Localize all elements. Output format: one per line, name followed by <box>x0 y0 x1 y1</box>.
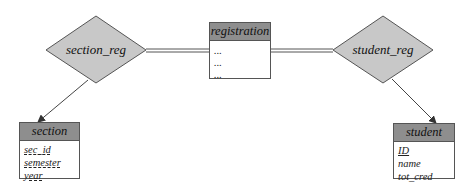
entity-title: registration <box>210 23 270 41</box>
arrow-to-student <box>392 79 436 123</box>
entity-attribute: tot_cred <box>398 170 450 183</box>
entity-registration[interactable]: registration ... ... ... <box>209 22 271 79</box>
relationship-label-section-reg: section_reg <box>56 42 136 58</box>
entity-attribute-discriminator: sec_id <box>24 143 75 156</box>
entity-attribute: name <box>398 157 450 170</box>
entity-section[interactable]: section sec_id semester year <box>19 122 80 179</box>
entity-attribute-discriminator: year <box>24 169 75 182</box>
total-participation-line-right <box>271 49 333 52</box>
arrow-to-section <box>38 80 88 122</box>
relationship-label-student-reg: student_reg <box>343 42 423 58</box>
entity-attribute-discriminator: semester <box>24 156 75 169</box>
entity-title: section <box>20 123 79 141</box>
entity-attribute: ... <box>214 68 266 81</box>
entity-student[interactable]: student ID name tot_cred <box>393 123 455 179</box>
total-participation-line-left <box>146 49 209 52</box>
entity-title: student <box>394 124 454 142</box>
entity-attribute-primary-key: ID <box>398 144 450 157</box>
